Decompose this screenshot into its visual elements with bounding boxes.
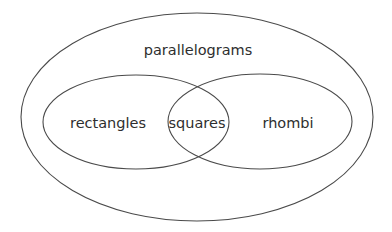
rhombi-label: rhombi	[262, 115, 313, 131]
venn-diagram: parallelograms rectangles squares rhombi	[0, 0, 392, 232]
rectangles-label: rectangles	[70, 115, 146, 131]
squares-label: squares	[169, 115, 226, 131]
parallelograms-label: parallelograms	[144, 42, 253, 58]
